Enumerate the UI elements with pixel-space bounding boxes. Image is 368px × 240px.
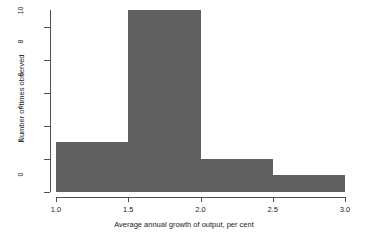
x-axis-tick-label: 3.0 xyxy=(330,205,360,214)
y-axis-tick xyxy=(44,60,50,61)
histogram-bar xyxy=(201,159,273,192)
y-axis-tick xyxy=(44,93,50,94)
histogram-figure: 0 2 4 6 8 10 1.0 1.5 2.0 2.5 3.0 Average… xyxy=(0,0,368,240)
x-axis-tick-label: 1.5 xyxy=(113,205,143,214)
x-axis-tick-label: 1.0 xyxy=(41,205,71,214)
x-axis-tick xyxy=(201,197,202,202)
x-axis-tick xyxy=(56,197,57,202)
histogram-bar xyxy=(128,10,200,192)
x-axis-tick-label: 2.5 xyxy=(258,205,288,214)
y-axis-tick xyxy=(44,126,50,127)
x-axis-tick xyxy=(273,197,274,202)
x-axis-tick xyxy=(128,197,129,202)
y-axis-tick xyxy=(44,27,50,28)
histogram-bar xyxy=(273,175,345,192)
y-axis-tick xyxy=(44,159,50,160)
y-axis-tick xyxy=(44,192,50,193)
plot-area xyxy=(56,10,345,192)
histogram-bar xyxy=(56,142,128,192)
y-axis-title: Number of times observed xyxy=(17,34,26,164)
x-axis-tick-label: 2.0 xyxy=(186,205,216,214)
y-axis-line xyxy=(50,10,51,192)
x-axis-title: Average annual growth of output, per cen… xyxy=(0,220,368,229)
x-axis-tick xyxy=(345,197,346,202)
